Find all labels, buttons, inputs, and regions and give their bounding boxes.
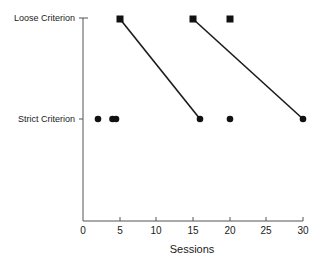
x-tick-label: 25 xyxy=(260,225,272,236)
x-tick-label: 15 xyxy=(187,225,199,236)
x-tick-label: 30 xyxy=(297,225,309,236)
x-tick-label: 20 xyxy=(224,225,236,236)
square-marker xyxy=(227,16,234,23)
circle-marker xyxy=(197,116,204,123)
y-label-strict: Strict Criterion xyxy=(18,114,75,124)
y-label-loose: Loose Criterion xyxy=(14,13,75,23)
square-marker xyxy=(190,16,197,23)
connector-line xyxy=(120,19,200,119)
circle-marker xyxy=(113,116,120,123)
connector-line xyxy=(193,19,303,119)
square-marker xyxy=(117,16,124,23)
x-ticks xyxy=(120,217,303,221)
circle-marker xyxy=(300,116,307,123)
chart: Loose Criterion Strict Criterion 0 5 10 … xyxy=(0,0,325,267)
x-tick-label: 0 xyxy=(80,225,86,236)
x-tick-labels: 0 5 10 15 20 25 30 xyxy=(80,225,309,236)
circle-marker xyxy=(227,116,234,123)
x-tick-label: 10 xyxy=(150,225,162,236)
x-tick-label: 5 xyxy=(117,225,123,236)
x-axis-title: Sessions xyxy=(170,243,215,255)
circle-marker xyxy=(95,116,102,123)
